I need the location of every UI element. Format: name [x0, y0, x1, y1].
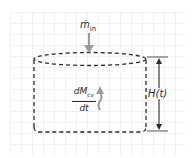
mass-flow-subscript: in [90, 25, 96, 33]
cylinder-diagram [0, 0, 193, 158]
diagram-canvas: ṁin dMcv dt H(t) [0, 0, 193, 158]
fraction-numerator: dMcv [72, 86, 96, 102]
mass-flow-symbol: ṁ [80, 19, 90, 30]
inflow-arrow-icon [84, 33, 94, 53]
mass-flow-in-label: ṁin [80, 19, 96, 33]
cylinder-bottom-edge [34, 127, 146, 132]
cylinder-top-ellipse [34, 53, 146, 66]
height-label: H(t) [148, 88, 167, 99]
numerator-text: dM [74, 86, 87, 96]
mass-rate-fraction: dMcv dt [72, 86, 96, 114]
wavy-up-arrow-icon [96, 86, 104, 110]
numerator-subscript: cv [87, 91, 94, 98]
fraction-denominator: dt [72, 102, 96, 114]
